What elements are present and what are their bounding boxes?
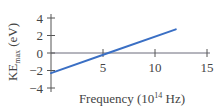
- x-tick-labels: 5 10 15: [100, 60, 214, 75]
- x-axis-title-sup: 14: [154, 91, 162, 100]
- y-axis-title-main: KE: [5, 64, 20, 81]
- x-axis-title: Frequency (1014 Hz): [79, 91, 185, 106]
- y-axis-title-tail: (eV): [5, 23, 20, 50]
- y-tick-label: −4: [29, 81, 43, 96]
- y-axis-title: KEmax (eV): [5, 23, 22, 81]
- x-tick-label: 10: [149, 60, 162, 75]
- kinetic-energy-frequency-chart: 4 2 0 −2 −4 5 10 15 Frequency (1014 Hz) …: [0, 0, 215, 106]
- x-axis-title-main: Frequency (10: [79, 91, 154, 106]
- chart-svg: 4 2 0 −2 −4 5 10 15 Frequency (1014 Hz) …: [0, 0, 215, 106]
- y-tick-label: 4: [37, 11, 44, 26]
- y-tick-label: −2: [29, 63, 43, 78]
- x-tick-label: 5: [100, 60, 107, 75]
- y-tick-labels: 4 2 0 −2 −4: [29, 11, 43, 96]
- y-tick-label: 2: [37, 28, 44, 43]
- y-tick-label: 0: [37, 46, 44, 61]
- x-axis-title-tail: Hz): [162, 91, 185, 106]
- x-tick-label: 15: [201, 60, 214, 75]
- y-axis-title-sub: max: [13, 50, 22, 64]
